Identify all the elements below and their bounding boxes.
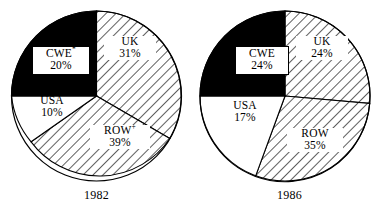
pie-chart-figure: UK 31% ROW+ 39% USA 10% CWE* 20% 1982 bbox=[0, 0, 386, 211]
year-caption-1986: 1986 bbox=[193, 188, 386, 203]
pie-svg-1986 bbox=[193, 0, 386, 211]
pie-chart-1982: UK 31% ROW+ 39% USA 10% CWE* 20% 1982 bbox=[0, 0, 193, 211]
slice-uk-1986[interactable] bbox=[285, 11, 370, 103]
pie-chart-1986: UK 24% ROW 35% USA 17% CWE 24% 1986 bbox=[193, 0, 386, 211]
slice-cwe-1986[interactable] bbox=[200, 11, 285, 96]
year-caption-1982: 1982 bbox=[0, 188, 193, 203]
slice-cwe-1982[interactable] bbox=[12, 11, 97, 96]
pie-svg-1982 bbox=[0, 0, 193, 211]
